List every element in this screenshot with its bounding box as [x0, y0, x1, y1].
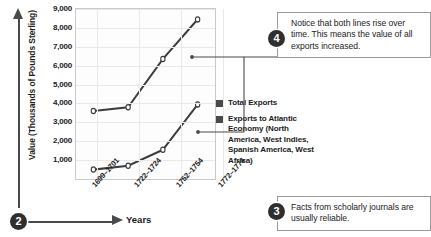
data-point-marker: [126, 105, 130, 110]
vertical-gridline: [97, 9, 98, 179]
y-axis-title: Value (Thousands of Pounds Sterling): [27, 5, 37, 165]
y-tick-label: 8,000: [53, 22, 72, 31]
vertical-gridline: [181, 9, 182, 179]
callout-marker-2[interactable]: 2: [10, 213, 27, 230]
y-axis-tick-labels: 1,0002,0003,0004,0005,0006,0007,0008,000…: [46, 8, 72, 180]
callout-box-3: Facts from scholarly journals are usuall…: [277, 196, 431, 231]
callout-2-vertical-arm: [18, 18, 20, 208]
data-point-marker: [195, 17, 199, 22]
y-tick-label: 5,000: [53, 79, 72, 88]
callout-4-leader-line: [186, 36, 278, 139]
y-tick-label: 3,000: [53, 117, 72, 126]
y-tick-label: 9,000: [53, 4, 72, 13]
y-tick-label: 4,000: [53, 98, 72, 107]
y-tick-label: 2,000: [53, 136, 72, 145]
y-tick-label: 6,000: [53, 60, 72, 69]
callout-box-4: Notice that both lines rise over time. T…: [277, 12, 431, 58]
callout-marker-3[interactable]: 3: [268, 203, 285, 220]
data-point-marker: [161, 56, 165, 61]
y-tick-label: 1,000: [53, 155, 72, 164]
x-axis-tick-labels: 1699–17011722–17241752–17541772–1774: [75, 181, 216, 227]
callout-2-up-arrowhead-icon: [13, 8, 23, 19]
data-point-marker: [161, 147, 165, 152]
vertical-gridline: [139, 9, 140, 179]
y-tick-label: 7,000: [53, 41, 72, 50]
data-point-marker: [126, 163, 130, 168]
data-point-marker: [91, 167, 95, 172]
data-point-marker: [91, 108, 95, 113]
callout-marker-4[interactable]: 4: [268, 30, 285, 47]
